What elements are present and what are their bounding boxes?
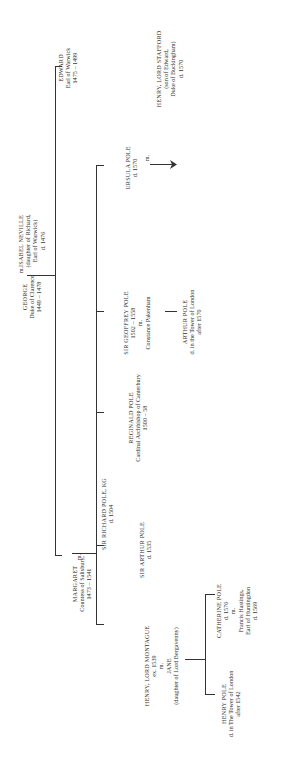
edward-name: EDWARD — [57, 38, 64, 98]
catherine-branch — [205, 594, 215, 595]
reginald-branch — [96, 412, 104, 413]
ursula-branch — [96, 165, 104, 166]
person-richard: SIR RICHARD POLE, KG d. 1504 — [100, 474, 116, 554]
person-george: GEORGE Duke of Clarence 1449 – 1478 — [21, 269, 45, 325]
ursula-marriage-m: m. — [143, 152, 151, 164]
person-arthur: SIR ARTHUR POLE d. 1535 — [138, 522, 154, 578]
person-margaret: MARGARET Countess of Salisbury, 1473 – 1… — [71, 551, 95, 617]
henry-pole-branch — [205, 694, 215, 695]
arrow-icon — [170, 160, 178, 169]
montague-children-line — [205, 594, 206, 695]
person-henry-pole: HENRY POLE d. in The Tower of London aft… — [220, 660, 244, 748]
person-geoffrey: SIR GEOFFREY POLE 1502 – 1558 m. Constan… — [122, 285, 156, 361]
montague-child-drop — [185, 659, 205, 660]
person-catherine: CATHERINE POLE d. 1576 m. Francis Hastin… — [215, 576, 257, 646]
person-arthur-jr: ARTHUR POLE d. in the Tower of London af… — [181, 278, 205, 366]
geoffrey-branch — [96, 311, 104, 312]
person-montague: HENRY, LORD MONTAGUE ex. 1539 m. JANE (d… — [143, 618, 183, 714]
pole-children-line — [96, 165, 97, 625]
margaret-branch-line — [55, 555, 62, 556]
geoffrey-child-line — [165, 311, 177, 312]
george-main-line — [55, 66, 56, 556]
montague-branch — [96, 624, 104, 625]
person-reginald: REGINALD POLE Cardinal Archbishop of Can… — [127, 363, 151, 473]
person-edward: EDWARD Earl of Warwick 1475 – 1499 — [57, 38, 83, 98]
person-ursula: URSULA POLE d. 1570 — [124, 136, 140, 200]
person-stafford: HENRY, LORD STAFFORD (son of Edward, Duk… — [155, 28, 183, 110]
